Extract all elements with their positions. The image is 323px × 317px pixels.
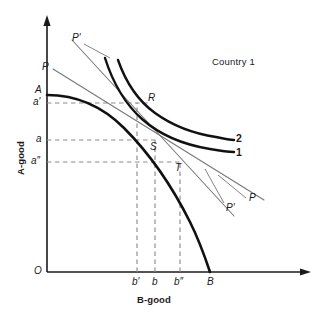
origin-label: O <box>34 266 42 276</box>
indifference-curve-1-label: 1 <box>236 147 242 158</box>
x-axis-title: B-good <box>137 295 171 305</box>
axes-group <box>43 15 311 276</box>
price-line-P-prime-top-label: P′ <box>72 33 81 43</box>
y-tick-A: A <box>35 85 42 95</box>
economics-figure: Country 1 A-good B-good O A a′ a a″ b′ b… <box>0 0 323 317</box>
y-tick-a-double-prime: a″ <box>31 156 40 166</box>
production-possibility-frontier <box>47 95 210 272</box>
x-tick-B: B <box>207 277 214 287</box>
figure-canvas <box>0 0 323 317</box>
guide-lines-group <box>47 103 181 272</box>
price-line-P-top-label: P <box>42 62 49 72</box>
y-axis-arrow-icon <box>43 15 50 26</box>
y-tick-a: a <box>36 134 42 144</box>
country-annotation: Country 1 <box>212 57 255 67</box>
leader-P-prime-top <box>84 44 110 58</box>
y-tick-a-prime: a′ <box>33 97 40 107</box>
x-axis-arrow-icon <box>300 268 311 275</box>
y-axis-title: A-good <box>16 141 26 175</box>
x-tick-b: b <box>152 277 158 287</box>
indifference-curve-2-label: 2 <box>236 133 242 144</box>
point-R: R <box>148 93 155 103</box>
point-T: T <box>175 163 181 173</box>
x-tick-b-prime: b′ <box>132 277 139 287</box>
x-tick-b-double-prime: b″ <box>174 277 183 287</box>
price-line-P-prime-bottom-label: P′ <box>226 203 235 213</box>
price-line-P-bottom-label: P <box>249 193 256 203</box>
leader-P-prime-bottom <box>205 169 224 203</box>
indifference-curve-2 <box>118 60 234 140</box>
point-S: S <box>150 142 157 152</box>
